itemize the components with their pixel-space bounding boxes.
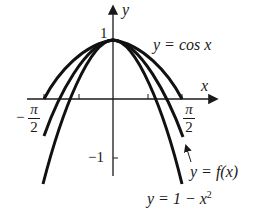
cos-label: y = cos x xyxy=(153,37,211,53)
y-axis-label: y xyxy=(122,2,129,18)
y-tick-minus-one: −1 xyxy=(88,150,104,165)
f-label: y = f(x) xyxy=(190,164,238,180)
poly-label: y = 1 − x2 xyxy=(147,190,212,207)
y-tick-one: 1 xyxy=(100,26,108,41)
x-axis-label: x xyxy=(201,78,208,94)
graph-figure: y x 1 −1 − π 2 π 2 y = cos x y = f(x) y … xyxy=(0,0,256,213)
f-pointer-arrow xyxy=(186,146,191,162)
tick-label-pi-half: π 2 xyxy=(183,102,195,135)
tick-label-neg-pi-half: π 2 xyxy=(28,102,40,135)
neg-sign: − xyxy=(16,110,24,125)
